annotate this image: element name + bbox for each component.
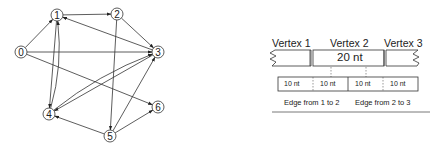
segment-3-length: 10 nt [355,80,371,87]
vertex-1-label: Vertex 1 [272,37,311,49]
vertex-2-label: Vertex 2 [330,37,369,49]
vertex-2-length: 20 nt [337,51,363,63]
vertex-3-label: Vertex 3 [384,37,423,49]
caption-edge-1-to-2: Edge from 1 to 2 [284,98,339,107]
sequence-diagram [0,0,430,153]
segment-1-length: 10 nt [284,80,300,87]
caption-edge-2-to-3: Edge from 2 to 3 [355,98,410,107]
vertex-3-box [386,50,419,66]
segment-4-length: 10 nt [390,80,406,87]
vertex-1-box [270,50,311,66]
segment-2-length: 10 nt [320,80,336,87]
